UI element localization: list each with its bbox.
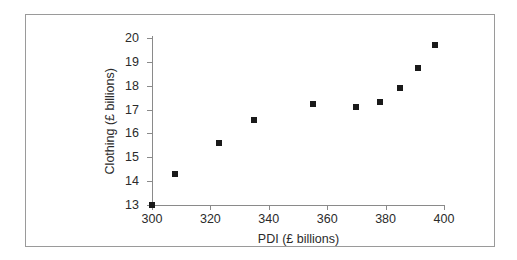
y-axis-tick-label: 19 [125, 56, 139, 69]
scatter-point [310, 101, 316, 107]
x-axis-tick: 400 [444, 205, 445, 210]
screenshot-root: Clothing (£ billions) PDI (£ billions) 1… [0, 0, 517, 260]
scatter-point [149, 202, 155, 208]
x-axis-tick-label: 380 [375, 213, 396, 226]
x-axis-tick-label: 300 [142, 213, 163, 226]
plot-area: 1314151617181920 300320340360380400 [152, 38, 444, 205]
y-axis-tick-label: 15 [125, 151, 139, 164]
y-axis-tick-label: 13 [125, 199, 139, 212]
scatter-point [216, 140, 222, 146]
scatter-point [397, 85, 403, 91]
x-axis-tick: 380 [386, 205, 387, 210]
x-axis-tick: 360 [327, 205, 328, 210]
x-tick-layer: 300320340360380400 [152, 38, 444, 205]
y-axis-tick-label: 20 [125, 32, 139, 45]
x-axis-title: PDI (£ billions) [152, 233, 445, 246]
scatter-point [251, 117, 257, 123]
y-axis-tick-label: 16 [125, 127, 139, 140]
y-axis-tick-label: 18 [125, 79, 139, 92]
scatter-point [353, 104, 359, 110]
x-axis-tick-label: 340 [258, 213, 279, 226]
x-axis-tick-label: 400 [434, 213, 455, 226]
y-axis-title-label: Clothing (£ billions) [104, 68, 117, 174]
y-axis-title: Clothing (£ billions) [98, 38, 122, 205]
y-axis-tick-label: 17 [125, 103, 139, 116]
x-axis-tick-label: 320 [200, 213, 221, 226]
y-axis-tick-label: 14 [125, 175, 139, 188]
scatter-point [377, 99, 383, 105]
x-axis-tick-label: 360 [317, 213, 338, 226]
scatter-point [432, 42, 438, 48]
x-axis-tick: 320 [210, 205, 211, 210]
scatter-point [415, 65, 421, 71]
x-axis-line [152, 205, 445, 206]
x-axis-tick: 340 [269, 205, 270, 210]
x-axis-title-label: PDI (£ billions) [258, 232, 339, 246]
scatter-point [172, 171, 178, 177]
chart-figure-frame: Clothing (£ billions) PDI (£ billions) 1… [25, 14, 495, 247]
